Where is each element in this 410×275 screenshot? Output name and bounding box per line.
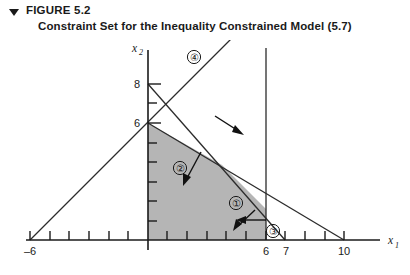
y-axis-title-subscript: 2 <box>139 48 143 57</box>
callout-2-label: ② <box>176 163 185 174</box>
y-axis-title-text: x <box>131 42 138 54</box>
x-axis-title-text: x <box>387 234 394 246</box>
callout-4-arrow-head <box>232 125 244 135</box>
x-tick-label-6: 6 <box>263 245 269 257</box>
callout-3-label: ③ <box>269 226 278 237</box>
constraint-set-chart: –6 6 7 10 6 8 x 1 x 2 ④ ② <box>0 40 410 275</box>
x-tick-label-7: 7 <box>283 245 289 257</box>
y-tick-label-6: 6 <box>134 117 140 129</box>
x-axis-ticks <box>30 231 344 240</box>
triangle-down-icon <box>9 9 19 16</box>
x-axis-title: x 1 <box>387 234 399 250</box>
callout-4-label: ④ <box>190 52 199 63</box>
y-axis-title: x 2 <box>131 42 143 57</box>
figure-caption: Constraint Set for the Inequality Constr… <box>38 20 352 32</box>
x-axis-title-subscript: 1 <box>395 241 399 250</box>
x-tick-label--6: –6 <box>24 245 36 257</box>
callout-4: ④ <box>187 50 244 135</box>
feasible-region <box>148 123 266 240</box>
callout-1-label: ① <box>232 198 241 209</box>
figure-plot: –6 6 7 10 6 8 x 1 x 2 ④ ② <box>0 40 410 275</box>
y-tick-label-8: 8 <box>134 78 140 90</box>
x-tick-label-10: 10 <box>338 245 350 257</box>
figure-header: FIGURE 5.2 Constraint Set for the Inequa… <box>0 0 410 42</box>
figure-number: FIGURE 5.2 <box>26 4 91 16</box>
